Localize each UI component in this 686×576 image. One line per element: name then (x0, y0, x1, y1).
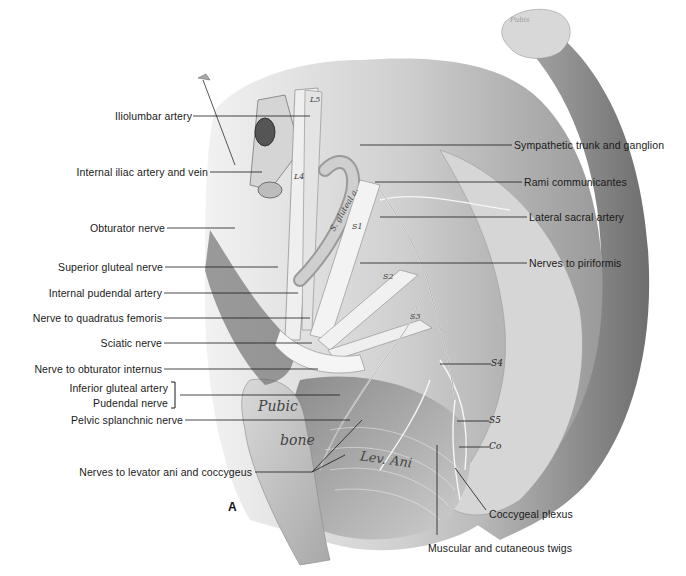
label-muscular-cutaneous-twigs: Muscular and cutaneous twigs (428, 542, 572, 554)
label-nerves-to-piriformis: Nerves to piriformis (529, 257, 621, 269)
label-nerve-to-quadratus-femoris: Nerve to quadratus femoris (33, 312, 162, 324)
label-s5: S5 (489, 415, 501, 425)
label-nerves-to-levator-ani: Nerves to levator ani and coccygeus (79, 466, 252, 478)
label-sciatic-nerve: Sciatic nerve (101, 337, 162, 349)
label-lateral-sacral-artery: Lateral sacral artery (529, 211, 624, 223)
anatomical-illustration: L5 L4 S1 S2 S3 S4 S5 Co Pubic bone Lev. … (0, 0, 686, 576)
label-pelvic-splanchnic-nerve: Pelvic splanchnic nerve (71, 414, 183, 426)
label-s1: S1 (352, 222, 363, 231)
panel-letter: A (228, 500, 237, 514)
label-pudendal-nerve: Pudendal nerve (93, 397, 168, 409)
label-co: Co (489, 441, 501, 451)
label-l5: L5 (310, 95, 320, 104)
label-sympathetic-trunk: Sympathetic trunk and ganglion (514, 139, 664, 151)
label-pubis: Pubis (510, 16, 530, 24)
label-inferior-gluteal-artery: Inferior gluteal artery (69, 382, 168, 394)
label-obturator-nerve: Obturator nerve (90, 222, 165, 234)
label-s4: S4 (491, 358, 503, 368)
label-s2: S2 (383, 272, 394, 281)
label-bone: bone (280, 432, 315, 448)
label-rami-communicantes: Rami communicantes (524, 176, 627, 188)
label-s3: S3 (410, 312, 421, 321)
label-iliolumbar-artery: Iliolumbar artery (115, 110, 192, 122)
label-coccygeal-plexus: Coccygeal plexus (489, 508, 573, 520)
label-nerve-to-obturator-internus: Nerve to obturator internus (34, 363, 162, 375)
label-superior-gluteal-nerve: Superior gluteal nerve (58, 261, 163, 273)
label-l4: L4 (294, 172, 304, 181)
label-pubic: Pubic (258, 398, 298, 414)
label-internal-iliac-artery-vein: Internal iliac artery and vein (77, 166, 208, 178)
label-internal-pudendal-artery: Internal pudendal artery (49, 287, 162, 299)
